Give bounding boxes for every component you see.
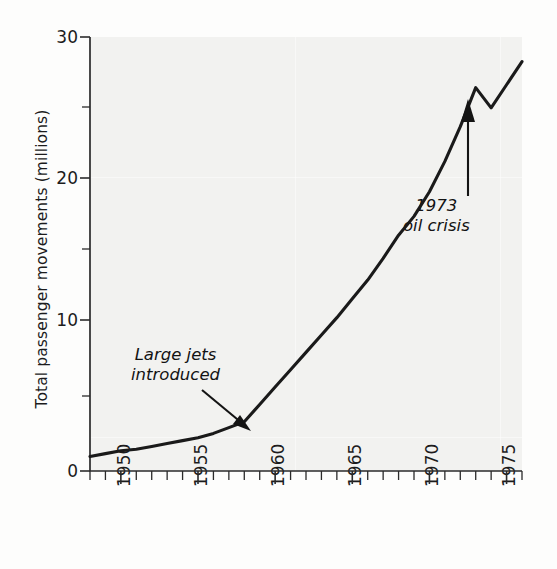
chart-svg — [0, 0, 557, 569]
x-axis-ticks — [90, 471, 522, 484]
y-axis-major-ticks — [80, 37, 90, 471]
annotation-large-jets-arrow — [202, 390, 251, 431]
axis-lines — [90, 37, 522, 471]
data-series-line — [90, 62, 522, 457]
chart-figure: Total passenger movements (millions) 30 … — [0, 0, 557, 569]
y-axis-minor-ticks — [82, 107, 90, 396]
annotation-oil-crisis-arrow — [461, 99, 475, 196]
